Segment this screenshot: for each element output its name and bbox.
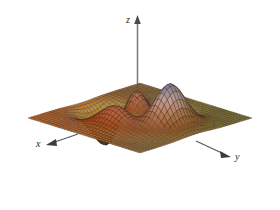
axis-label-y: y	[235, 152, 239, 162]
surface-plot-figure: z x y	[0, 0, 280, 210]
axis-label-x: x	[36, 139, 40, 149]
axis-label-z: z	[126, 15, 130, 25]
surface-plot-canvas	[0, 0, 280, 210]
